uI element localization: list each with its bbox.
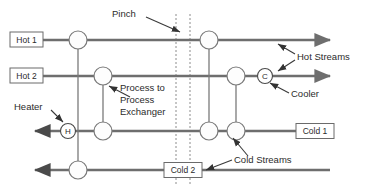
exchanger-node-ex-4-cold[interactable] [227, 122, 245, 140]
annotation-hot-streams-leader-lower [278, 60, 295, 71]
annotation-hot-streams-leader-upper [278, 44, 295, 54]
diagram-canvas: H C Hot 1 Hot 2 Cold 1 Cold 2 Pinch [0, 0, 370, 191]
annotation-hot-streams-label: Hot Streams [297, 51, 350, 62]
annotation-pinch-label: Pinch [112, 8, 136, 19]
stream-tag-cold2-label: Cold 2 [171, 165, 196, 175]
annotation-heater-leader [51, 110, 63, 122]
annotation-heater: Heater [14, 101, 63, 122]
annotation-pinch-leader [146, 17, 180, 32]
hen-grid-diagram: H C Hot 1 Hot 2 Cold 1 Cold 2 Pinch [0, 0, 370, 191]
stream-tag-cold2[interactable]: Cold 2 [164, 163, 202, 178]
annotation-cold-streams: Cold Streams [206, 138, 292, 170]
stream-tag-cold1[interactable]: Cold 1 [296, 124, 334, 139]
cooler-unit-c[interactable]: C [258, 69, 273, 84]
exchanger-node-ex-1-cold[interactable] [69, 161, 87, 179]
exchanger-node-ex-2-cold[interactable] [94, 122, 112, 140]
stream-tag-hot1[interactable]: Hot 1 [10, 32, 43, 47]
annotation-cooler-leader [270, 83, 289, 93]
exchanger-node-ex-3-hot[interactable] [200, 31, 218, 49]
cooler-symbol-label: C [262, 72, 268, 81]
stream-tag-hot1-label: Hot 1 [16, 35, 37, 45]
annotation-ptp-line3: Exchanger [120, 106, 165, 117]
annotation-process-to-process-exchanger: Process to Process Exchanger [109, 82, 165, 117]
stream-tag-cold1-label: Cold 1 [303, 126, 328, 136]
exchanger-node-ex-1-hot[interactable] [69, 31, 87, 49]
annotation-cold-streams-label: Cold Streams [234, 154, 292, 165]
exchanger-node-ex-3-cold[interactable] [200, 122, 218, 140]
annotation-ptp-line1: Process to [120, 82, 165, 93]
heater-symbol-label: H [65, 127, 71, 136]
annotation-ptp-line2: Process [120, 94, 155, 105]
annotation-pinch: Pinch [112, 8, 180, 32]
annotation-heater-label: Heater [14, 101, 43, 112]
annotation-hot-streams: Hot Streams [278, 44, 350, 71]
heater-unit-h[interactable]: H [61, 124, 76, 139]
stream-tag-hot2[interactable]: Hot 2 [10, 68, 43, 83]
annotation-cooler-label: Cooler [291, 88, 319, 99]
exchanger-node-ex-2-hot[interactable] [94, 67, 112, 85]
stream-tag-hot2-label: Hot 2 [16, 71, 37, 81]
annotation-cold-streams-leader-lower [206, 160, 232, 170]
exchanger-node-ex-4-hot[interactable] [227, 67, 245, 85]
annotation-cooler: Cooler [270, 83, 319, 99]
